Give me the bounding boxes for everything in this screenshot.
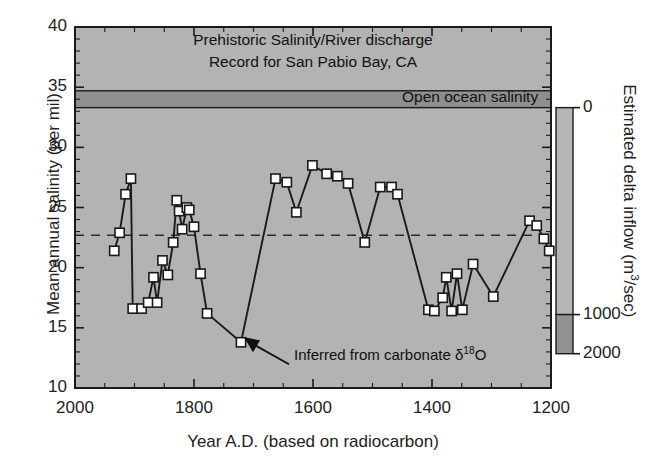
chart-title-line-2: Record for San Pabio Bay, CA [75, 53, 551, 71]
annotation-text: Inferred from carbonate [294, 346, 455, 363]
x-tick-label: 1800 [159, 398, 229, 418]
plot-background [75, 27, 551, 388]
data-point-marker [163, 270, 172, 279]
data-point-marker [189, 222, 198, 231]
data-point-marker [236, 338, 245, 347]
data-point-marker [360, 238, 369, 247]
x-tick-label: 2000 [40, 398, 110, 418]
data-point-marker [532, 221, 541, 230]
open-ocean-salinity-label: Open ocean salinity [402, 88, 538, 106]
data-point-marker [393, 190, 402, 199]
data-point-marker [196, 269, 205, 278]
data-point-marker [271, 174, 280, 183]
data-point-marker [468, 259, 477, 268]
data-point-marker [110, 246, 119, 255]
data-point-marker [172, 196, 181, 205]
data-point-marker [178, 225, 187, 234]
data-point-marker [539, 234, 548, 243]
annotation-exponent: 18 [463, 345, 474, 356]
data-point-marker [202, 309, 211, 318]
data-point-marker [158, 256, 167, 265]
y2-tick-label: 0 [583, 97, 643, 117]
data-point-marker [115, 228, 124, 237]
data-point-marker [308, 161, 317, 170]
data-point-marker [128, 304, 137, 313]
data-point-marker [121, 190, 130, 199]
data-point-marker [452, 269, 461, 278]
chart-title-line-1: Prehistoric Salinity/River discharge [75, 31, 551, 49]
data-point-marker [442, 273, 451, 282]
data-point-marker [169, 238, 178, 247]
y-tick-label: 15 [27, 317, 67, 337]
x-tick-label: 1600 [278, 398, 348, 418]
data-point-marker [458, 305, 467, 314]
x-tick-label: 1400 [397, 398, 467, 418]
inferred-carbonate-annotation: Inferred from carbonate δ18O [294, 345, 486, 363]
data-point-marker [447, 306, 456, 315]
x-tick-label: 1200 [516, 398, 586, 418]
y-tick-label: 30 [27, 136, 67, 156]
data-point-marker [489, 292, 498, 301]
inflow-colorbar-upper [556, 108, 573, 315]
data-point-marker [545, 246, 554, 255]
data-point-marker [292, 208, 301, 217]
y2-tick-label: 1000 [583, 304, 643, 324]
annotation-tail: O [475, 346, 487, 363]
data-point-marker [144, 298, 153, 307]
data-point-marker [376, 182, 385, 191]
data-point-marker [282, 178, 291, 187]
data-point-marker [185, 205, 194, 214]
y-tick-label: 25 [27, 197, 67, 217]
data-point-marker [344, 179, 353, 188]
y-tick-label: 20 [27, 257, 67, 277]
data-point-marker [149, 273, 158, 282]
data-point-marker [126, 174, 135, 183]
y-tick-label: 10 [27, 377, 67, 397]
chart-figure: Mean annual salinity (per mil) Estimated… [0, 0, 655, 470]
data-point-marker [322, 169, 331, 178]
data-point-marker [430, 306, 439, 315]
y-tick-label: 35 [27, 76, 67, 96]
data-point-marker [438, 293, 447, 302]
y-tick-label: 40 [27, 16, 67, 36]
inflow-colorbar-lower [556, 315, 573, 354]
data-point-marker [333, 172, 342, 181]
y2-tick-label: 2000 [583, 343, 643, 363]
data-point-marker [153, 298, 162, 307]
